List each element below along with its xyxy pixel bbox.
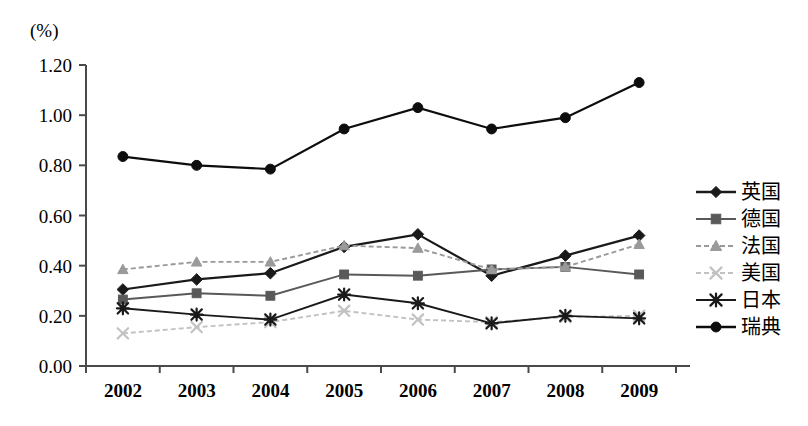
line-chart: (%) 0.000.200.400.600.801.001.20 2002200… bbox=[0, 0, 808, 426]
data-point-square bbox=[192, 289, 201, 298]
legend-label: 美国 bbox=[738, 263, 781, 283]
data-point-asterisk bbox=[264, 314, 276, 326]
x-tick-label: 2008 bbox=[546, 380, 584, 401]
data-point-diamond bbox=[117, 284, 129, 296]
data-point-asterisk bbox=[191, 309, 203, 321]
data-point-diamond bbox=[412, 229, 424, 241]
data-series-group bbox=[117, 78, 645, 339]
data-point-triangle bbox=[191, 257, 201, 266]
legend-item-3[interactable]: 美国 bbox=[694, 259, 806, 286]
plot-area: 0.000.200.400.600.801.001.20 20022003200… bbox=[0, 0, 808, 426]
legend-marker-circle-icon bbox=[694, 317, 738, 337]
x-tick-label: 2004 bbox=[251, 380, 290, 401]
series-5 bbox=[118, 78, 644, 174]
data-point-diamond bbox=[265, 267, 277, 279]
data-point-triangle bbox=[413, 243, 423, 252]
legend-marker-triangle-icon bbox=[694, 236, 738, 256]
legend-label: 法国 bbox=[738, 236, 781, 256]
legend-label: 英国 bbox=[738, 182, 781, 202]
data-point-circle bbox=[560, 113, 570, 123]
y-tick-label: 0.20 bbox=[39, 306, 72, 327]
legend-item-2[interactable]: 法国 bbox=[694, 232, 806, 259]
x-tick-label: 2002 bbox=[104, 380, 142, 401]
data-point-square bbox=[413, 271, 422, 280]
data-point-asterisk bbox=[412, 297, 424, 309]
y-tick-labels: 0.000.200.400.600.801.001.20 bbox=[39, 55, 72, 377]
y-tick-label: 1.00 bbox=[39, 105, 72, 126]
data-point-circle bbox=[118, 152, 128, 162]
data-point-triangle bbox=[634, 239, 644, 248]
data-point-circle bbox=[711, 322, 721, 332]
data-point-diamond bbox=[560, 250, 572, 262]
data-point-square bbox=[340, 270, 349, 279]
data-point-asterisk bbox=[559, 310, 571, 322]
legend-item-1[interactable]: 德国 bbox=[694, 205, 806, 232]
legend-marker-diamond-icon bbox=[694, 182, 738, 202]
data-point-asterisk bbox=[486, 317, 498, 329]
data-point-asterisk bbox=[710, 293, 723, 306]
axis-group bbox=[79, 65, 690, 373]
y-tick-label: 0.60 bbox=[39, 206, 72, 227]
data-point-diamond bbox=[191, 274, 203, 286]
data-point-circle bbox=[487, 124, 497, 134]
x-tick-label: 2007 bbox=[473, 380, 512, 401]
x-tick-label: 2006 bbox=[399, 380, 437, 401]
legend-marker-x-icon bbox=[694, 263, 738, 283]
data-point-square bbox=[635, 270, 644, 279]
data-point-circle bbox=[634, 78, 644, 88]
data-point-asterisk bbox=[117, 302, 129, 314]
data-point-square bbox=[266, 291, 275, 300]
legend-label: 德国 bbox=[738, 209, 781, 229]
data-point-square bbox=[711, 214, 721, 224]
x-tick-labels: 20022003200420052006200720082009 bbox=[104, 380, 658, 401]
legend-item-5[interactable]: 瑞典 bbox=[694, 313, 806, 340]
data-point-circle bbox=[413, 103, 423, 113]
chart-legend: 英国德国法国美国日本瑞典 bbox=[694, 178, 806, 340]
data-point-circle bbox=[339, 124, 349, 134]
y-tick-label: 1.20 bbox=[39, 55, 72, 76]
y-tick-label: 0.00 bbox=[39, 356, 72, 377]
legend-marker-asterisk-icon bbox=[694, 290, 738, 310]
x-tick-label: 2003 bbox=[178, 380, 216, 401]
legend-label: 瑞典 bbox=[738, 317, 781, 337]
data-point-asterisk bbox=[338, 289, 350, 301]
data-point-circle bbox=[192, 160, 202, 170]
legend-label: 日本 bbox=[738, 290, 781, 310]
y-tick-label: 0.80 bbox=[39, 155, 72, 176]
legend-item-0[interactable]: 英国 bbox=[694, 178, 806, 205]
series-line bbox=[123, 83, 639, 170]
y-tick-label: 0.40 bbox=[39, 256, 72, 277]
data-point-x bbox=[191, 322, 201, 332]
x-tick-label: 2005 bbox=[325, 380, 363, 401]
x-tick-label: 2009 bbox=[620, 380, 658, 401]
legend-item-4[interactable]: 日本 bbox=[694, 286, 806, 313]
legend-marker-square-icon bbox=[694, 209, 738, 229]
data-point-asterisk bbox=[633, 312, 645, 324]
data-point-circle bbox=[265, 164, 275, 174]
data-point-diamond bbox=[710, 186, 721, 197]
